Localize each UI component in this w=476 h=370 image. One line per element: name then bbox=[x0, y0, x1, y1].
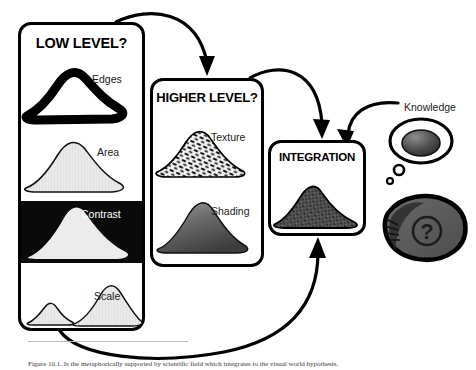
mound-dark-grainy-icon bbox=[274, 187, 357, 228]
label-contrast: Contrast bbox=[81, 208, 121, 220]
mound-dark-dome-icon bbox=[402, 130, 440, 156]
figure-canvas: LOW LEVEL? HIGHER LEVEL? INTEGRATION bbox=[0, 0, 476, 370]
label-edges: Edges bbox=[92, 73, 122, 85]
question-mark-glyph: ? bbox=[420, 219, 433, 244]
label-scale: Scale bbox=[94, 290, 120, 302]
shape-layer: ? bbox=[0, 0, 476, 370]
thought-bubble-dot-small bbox=[387, 178, 393, 184]
thought-bubble-dot-large bbox=[394, 165, 404, 175]
label-shading: Shading bbox=[211, 205, 250, 217]
label-area: Area bbox=[97, 146, 119, 158]
label-texture: Texture bbox=[211, 131, 245, 143]
horizontal-rule bbox=[28, 341, 188, 342]
two-mounds-small-icon bbox=[27, 303, 73, 325]
label-knowledge: Knowledge bbox=[404, 101, 456, 113]
